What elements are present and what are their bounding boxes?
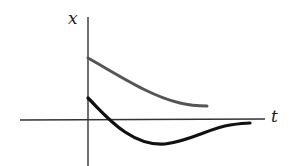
black-overshoot-curve bbox=[88, 98, 250, 144]
t-axis bbox=[20, 119, 265, 120]
t-axis-label: t bbox=[271, 108, 278, 125]
x-axis-label: x bbox=[68, 10, 78, 27]
diagram-canvas bbox=[0, 0, 296, 166]
gray-decay-curve bbox=[88, 58, 207, 106]
